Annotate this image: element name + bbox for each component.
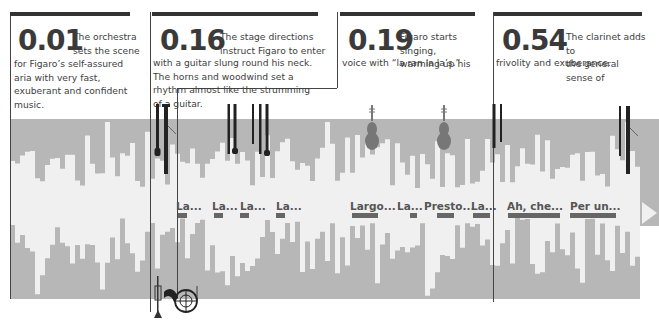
violin-icon (436, 105, 452, 151)
lyric-label: La... (240, 200, 266, 212)
caption-0-16: 0.16 The stage directions instruct Figar… (152, 12, 320, 88)
lyric-label: La... (212, 200, 238, 212)
marker-line-0-16c (337, 12, 338, 88)
lyric-duration-bar (214, 213, 223, 218)
lyric-label: Per un... (570, 200, 621, 212)
lyric-duration-bar (276, 213, 285, 218)
caption-rule (340, 12, 475, 16)
caption-text-top: The stage directions instruct Figaro to … (220, 30, 330, 57)
oboe-icon (263, 104, 271, 158)
caption-0-01: 0.01 The orchestra sets the scene for Fi… (10, 12, 130, 102)
violin-icon (364, 105, 380, 151)
caption-time: 0.16 (160, 26, 225, 56)
lyric-duration-bar (570, 213, 616, 218)
lyric-duration-bar (352, 213, 378, 218)
lyric-duration-bar (508, 213, 560, 218)
lyric-label: La... (397, 200, 423, 212)
lyric-label: Largo... (350, 200, 396, 212)
oboe-icon (498, 104, 504, 144)
marker-line-0-16 (150, 12, 151, 312)
lyric-duration-bar (437, 213, 454, 218)
clarinet-icon (160, 104, 178, 176)
lyric-label: La... (176, 200, 202, 212)
oboe-icon (231, 104, 239, 156)
caption-0-54: 0.54 The clarinet adds to the general se… (494, 12, 642, 82)
caption-text-top: The orchestra sets the scene (73, 30, 143, 57)
caption-text-body: with a guitar slung round his neck. The … (153, 56, 321, 110)
lyric-label: Presto... (424, 200, 474, 212)
caption-text-body: for Figaro’s self-assured aria with very… (14, 57, 139, 111)
clarinet-icon (622, 106, 640, 176)
oboe-icon (490, 104, 498, 150)
lyric-label: La... (276, 200, 302, 212)
caption-0-19: 0.19 Figaro starts singing, warming up h… (340, 12, 475, 82)
lyric-duration-bar (240, 213, 249, 218)
lyric-duration-bar (410, 213, 417, 218)
lyric-duration-bar (473, 213, 490, 218)
lyric-label: Ah, che... (507, 200, 563, 212)
lyric-label: La... (471, 200, 497, 212)
caption-text-body: voice with “la ran la la’s.” (342, 56, 482, 70)
caption-rule (10, 12, 130, 16)
caption-time: 0.54 (502, 26, 567, 56)
caption-rule (494, 12, 642, 16)
flute-icon (250, 104, 256, 146)
french-horn-icon (162, 284, 202, 316)
lyric-duration-bar (178, 213, 187, 218)
caption-rule (152, 12, 318, 16)
end-arrow-icon (640, 200, 659, 226)
caption-text-body: frivolity and exuberance. (496, 56, 646, 70)
